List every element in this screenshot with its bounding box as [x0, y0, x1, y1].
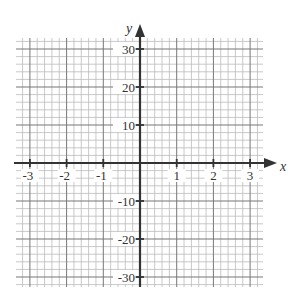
x-axis-arrow-icon [264, 158, 277, 168]
y-tick-label: 20 [122, 80, 135, 95]
y-axis-arrow-icon [135, 24, 145, 37]
x-axis-label: x [279, 159, 287, 174]
x-tick-label: 1 [173, 168, 180, 183]
y-tick-label: -30 [118, 270, 135, 285]
coordinate-plane: -3-2-1123302010-10-20-30 x y [0, 0, 303, 304]
y-tick-label: -20 [118, 232, 135, 247]
x-tick-label: -1 [96, 168, 107, 183]
x-tick-label: -2 [59, 168, 70, 183]
x-tick-label: -3 [22, 168, 33, 183]
y-axis-label: y [124, 21, 133, 36]
y-tick-label: -10 [118, 194, 135, 209]
x-tick-label: 3 [247, 168, 254, 183]
x-tick-label: 2 [210, 168, 217, 183]
y-tick-label: 30 [122, 42, 135, 57]
y-tick-label: 10 [122, 118, 135, 133]
